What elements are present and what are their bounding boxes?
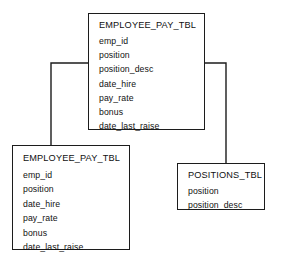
entity-field-date-hire: date_hire <box>23 199 129 209</box>
entity-field-emp-id: emp_id <box>23 170 129 180</box>
connector-top-to-bottom-left <box>51 63 88 145</box>
entity-field-bonus: bonus <box>23 228 129 238</box>
entity-field-emp-id: emp_id <box>99 36 204 46</box>
entity-field-pay-rate: pay_rate <box>99 93 204 103</box>
entity-field-position-desc: position_desc <box>188 200 264 210</box>
entity-field-position: position <box>188 186 264 196</box>
entity-field-position-desc: position_desc <box>99 64 204 74</box>
diagram-canvas: EMPLOYEE_PAY_TBL emp_id position positio… <box>0 0 283 263</box>
entity-employee-pay-tbl-top[interactable]: EMPLOYEE_PAY_TBL emp_id position positio… <box>88 13 205 130</box>
entity-title: POSITIONS_TBL <box>188 170 264 180</box>
entity-field-bonus: bonus <box>99 107 204 117</box>
entity-field-date-last-raise: date_last_raise <box>23 242 129 252</box>
entity-field-position: position <box>23 184 129 194</box>
entity-employee-pay-tbl-bottom[interactable]: EMPLOYEE_PAY_TBL emp_id position date_hi… <box>12 145 130 250</box>
entity-title: EMPLOYEE_PAY_TBL <box>23 153 129 163</box>
entity-field-position: position <box>99 50 204 60</box>
entity-field-date-hire: date_hire <box>99 79 204 89</box>
entity-positions-tbl[interactable]: POSITIONS_TBL position position_desc <box>177 163 265 210</box>
entity-field-date-last-raise: date_last_raise <box>99 121 204 131</box>
entity-title: EMPLOYEE_PAY_TBL <box>99 20 204 30</box>
entity-field-pay-rate: pay_rate <box>23 213 129 223</box>
